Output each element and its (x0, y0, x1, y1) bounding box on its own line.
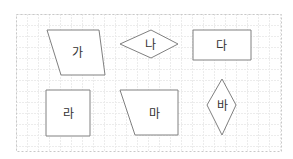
shape-diagram: 가나다라마바 (0, 0, 293, 159)
shape-ma: 마 (120, 90, 178, 135)
shape-label: 다 (216, 39, 227, 53)
shape-ga: 가 (47, 30, 105, 75)
shape-da: 다 (193, 30, 251, 60)
shape-label: 라 (63, 107, 74, 121)
shape-na: 나 (120, 30, 178, 58)
shape-label: 가 (72, 46, 83, 60)
shape-label: 마 (149, 107, 160, 121)
shape-ba: 바 (207, 79, 236, 135)
shape-label: 바 (217, 99, 228, 113)
shape-label: 나 (145, 38, 156, 52)
shape-ra: 라 (46, 90, 90, 136)
